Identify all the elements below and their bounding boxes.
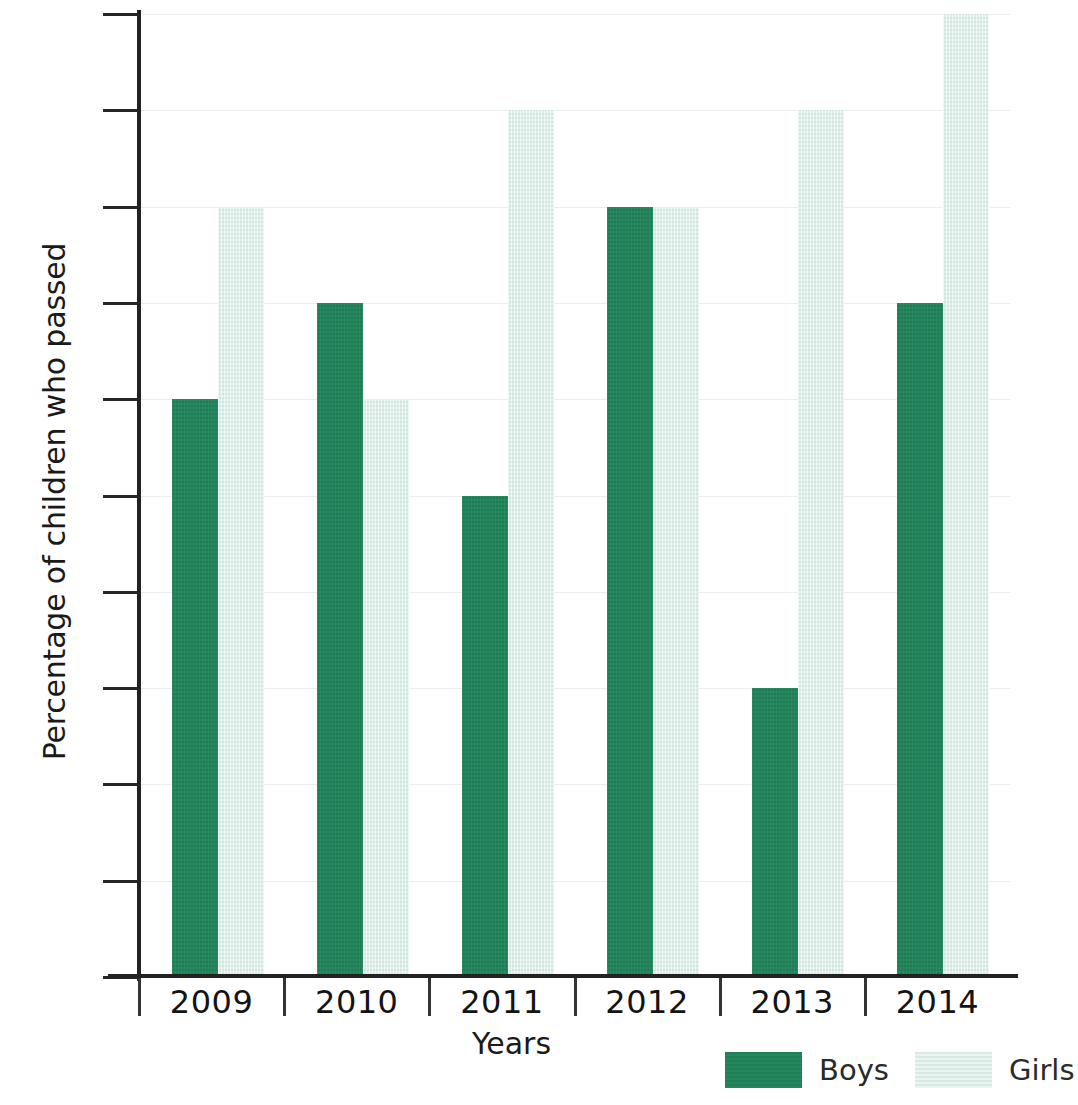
gridline: [139, 881, 1010, 882]
bar-girls-2011: [508, 110, 554, 977]
x-axis-line: [108, 974, 1018, 978]
x-tick-mark: [283, 978, 286, 1016]
y-axis-line: [137, 10, 141, 981]
y-tick-mark: [103, 783, 139, 786]
y-tick-mark: [103, 495, 139, 498]
legend-item-boys: Boys: [725, 1052, 915, 1088]
y-tick-mark: [103, 880, 139, 883]
y-tick-mark: [103, 687, 139, 690]
x-tick-label-2014: 2014: [857, 983, 1017, 1021]
x-tick-mark: [138, 978, 141, 1016]
bar-boys-2011: [462, 496, 508, 978]
y-tick-mark: [103, 206, 139, 209]
gridline: [139, 14, 1010, 15]
bar-boys-2010: [317, 303, 363, 977]
x-tick-label-2013: 2013: [712, 983, 872, 1021]
gridline: [139, 688, 1010, 689]
bar-girls-2013: [798, 110, 844, 977]
gridline: [139, 784, 1010, 785]
x-tick-label-2012: 2012: [567, 983, 727, 1021]
gridline: [139, 207, 1010, 208]
y-tick-mark: [103, 13, 139, 16]
legend-label-girls: Girls: [1009, 1053, 1075, 1087]
bar-girls-2014: [943, 14, 989, 977]
gridline: [139, 496, 1010, 497]
gridline: [139, 303, 1010, 304]
legend-label-boys: Boys: [819, 1053, 889, 1087]
bar-girls-2010: [363, 399, 409, 977]
gridline: [139, 592, 1010, 593]
gridline: [139, 110, 1010, 111]
bar-boys-2009: [172, 399, 218, 977]
legend-swatch-girls-icon: [915, 1052, 992, 1088]
bar-boys-2014: [897, 303, 943, 977]
legend-item-girls: Girls: [915, 1052, 1078, 1088]
x-tick-label-2011: 2011: [422, 983, 582, 1021]
gridline: [139, 399, 1010, 400]
bar-boys-2013: [752, 688, 798, 977]
y-axis-title: Percentage of children who passed: [37, 202, 72, 802]
plot-area: [139, 14, 1010, 977]
x-tick-mark: [574, 978, 577, 1016]
y-tick-mark: [103, 302, 139, 305]
x-tick-label-2010: 2010: [277, 983, 437, 1021]
y-tick-mark: [103, 398, 139, 401]
x-tick-mark: [719, 978, 722, 1016]
bar-boys-2012: [607, 207, 653, 977]
chart-legend: BoysGirls: [725, 1052, 1078, 1088]
x-tick-mark: [428, 978, 431, 1016]
x-tick-mark: [864, 978, 867, 1016]
legend-swatch-boys-icon: [725, 1052, 802, 1088]
y-tick-mark: [103, 591, 139, 594]
x-tick-label-2009: 2009: [132, 983, 292, 1021]
y-tick-mark: [103, 109, 139, 112]
bar-girls-2009: [218, 207, 264, 977]
bar-girls-2012: [653, 207, 699, 977]
